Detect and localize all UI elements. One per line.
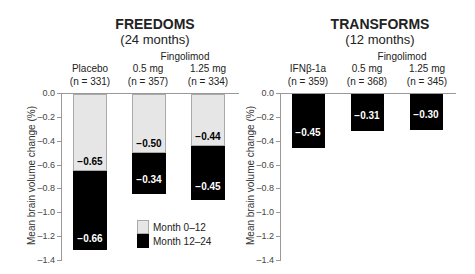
category-label: 0.5 mg [118,63,178,74]
transforms-subtitle: (12 months) [310,32,450,47]
legend-label-month-12-24: Month 12–24 [153,236,211,247]
category-label: IFNβ-1a [278,63,338,74]
tick-label: –0.4 [252,136,274,146]
category-n: (n = 334) [178,76,238,87]
value-label: −0.45 [188,181,228,192]
transforms-group-label: Fingolimod [362,51,442,62]
tick-label: 0.0 [33,88,55,98]
tick-label: –1.0 [252,207,274,217]
category-label: 1.25 mg [178,63,238,74]
value-label: −0.30 [406,109,446,120]
bar-ifnb1a [292,94,325,148]
value-label: −0.44 [188,131,228,142]
tick-label: –1.2 [252,231,274,241]
tick-label: –0.8 [33,183,55,193]
tick-label: –1.4 [252,255,274,265]
tick-label: –0.6 [33,160,55,170]
category-n: (n = 345) [397,76,457,87]
value-label: −0.65 [70,156,110,167]
freedoms-title: FREEDOMS [90,16,220,32]
value-label: −0.34 [129,174,169,185]
tick-label: –0.8 [252,183,274,193]
tick-label: –1.4 [33,255,55,265]
tick-label: –1.2 [33,231,55,241]
category-n: (n = 359) [278,76,338,87]
legend-label-month-0-12: Month 0–12 [153,222,206,233]
tick-label: 0.0 [252,88,274,98]
freedoms-y-axis-label: Mean brain volume change (%) [26,101,37,251]
value-label: −0.50 [129,138,169,149]
category-label: 1.25 mg [397,63,457,74]
category-label: 0.5 mg [337,63,397,74]
transforms-y-axis [280,93,281,261]
tick-label: –0.4 [33,136,55,146]
tick-label: –0.6 [252,160,274,170]
value-label: −0.45 [288,127,328,138]
transforms-title: TRANSFORMS [310,16,450,32]
category-n: (n = 368) [337,76,397,87]
tick-label: –0.2 [33,112,55,122]
tick-label: –1.0 [33,207,55,217]
legend-swatch-dark [137,234,149,248]
category-n: (n = 357) [118,76,178,87]
freedoms-subtitle: (24 months) [90,32,220,47]
freedoms-y-axis [61,93,62,261]
category-label: Placebo [60,63,120,74]
category-n: (n = 331) [60,76,120,87]
legend-swatch-light [137,220,149,234]
tick-label: –0.2 [252,112,274,122]
value-label: −0.31 [347,110,387,121]
freedoms-group-label: Fingolimod [145,51,225,62]
value-label: −0.66 [70,233,110,244]
transforms-y-axis-label: Mean brain volume change (%) [245,101,256,251]
